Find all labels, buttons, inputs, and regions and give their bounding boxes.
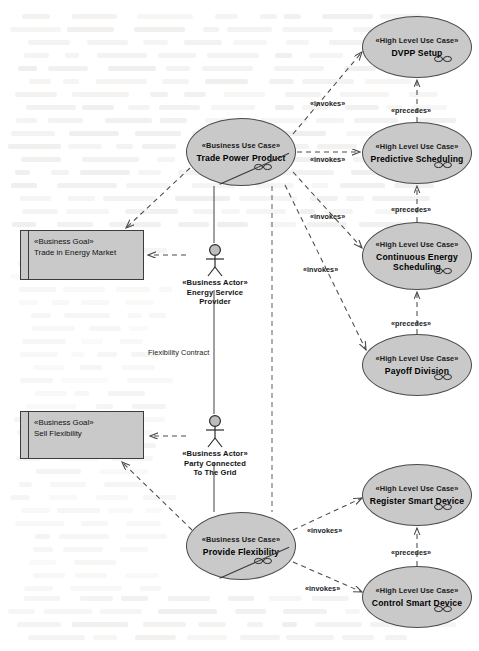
business-goal-text: «Business Goal»Sell Flexibility <box>34 418 139 439</box>
business-goal-marker <box>21 412 29 458</box>
use-case-provide-flexibility[interactable]: «Business Use Case»Provide Flexibility <box>186 512 296 580</box>
actor-label: «Business Actor»Party ConnectedTo The Gr… <box>155 449 275 478</box>
edge-label-precedes-1: «precedes» <box>391 106 431 115</box>
edge-invokes-dvpp-setup <box>293 52 362 134</box>
chain-icon <box>433 503 453 511</box>
business-use-case-slash <box>187 119 295 185</box>
actor-stick-figure-icon <box>155 243 275 277</box>
chain-icon <box>433 267 453 275</box>
actor-stick-figure-icon <box>155 414 275 448</box>
business-goal-sell-flexibility[interactable]: «Business Goal»Sell Flexibility <box>20 411 144 459</box>
chain-icon <box>433 605 453 613</box>
business-goal-stereotype: «Business Goal» <box>34 418 139 429</box>
use-case-continuous-energy-scheduling[interactable]: «High Level Use Case»Continuous Energy S… <box>362 222 472 290</box>
chain-icon <box>433 55 453 63</box>
edge-trade-power-product-to-goal <box>126 168 190 228</box>
use-case-register-smart-device[interactable]: «High Level Use Case»Register Smart Devi… <box>362 464 472 526</box>
actor-name-line2: To The Grid <box>155 468 275 478</box>
business-goal-name: Sell Flexibility <box>34 429 139 440</box>
actor-stereotype: «Business Actor» <box>155 278 275 288</box>
use-case-name: Register Smart Device <box>364 496 470 507</box>
uml-use-case-diagram: «Business Use Case»Trade Power Product«B… <box>0 0 479 651</box>
chain-icon <box>433 373 453 381</box>
actor-stereotype: «Business Actor» <box>155 449 275 459</box>
use-case-stereotype: «High Level Use Case» <box>375 354 458 363</box>
chain-icon <box>253 557 273 565</box>
edge-label-precedes-4: «precedes» <box>391 548 431 557</box>
edge-label-invokes-dvpp: «invokes» <box>310 99 345 108</box>
use-case-predictive-scheduling[interactable]: «High Level Use Case»Predictive Scheduli… <box>362 122 472 184</box>
edge-label-invokes-predictive: «invokes» <box>310 155 345 164</box>
use-case-trade-power-product[interactable]: «Business Use Case»Trade Power Product <box>186 118 296 186</box>
edge-label-invokes-payoff: «invokes» <box>303 265 338 274</box>
chain-icon <box>433 161 453 169</box>
chain-icon <box>253 163 273 171</box>
use-case-payoff-division[interactable]: «High Level Use Case»Payoff Division <box>362 334 472 396</box>
business-goal-name: Trade in Energy Market <box>34 248 139 259</box>
business-use-case-slash <box>187 513 295 579</box>
business-goal-marker <box>21 231 29 279</box>
business-actor-party-connected-to-the-grid[interactable]: «Business Actor»Party ConnectedTo The Gr… <box>155 414 275 478</box>
use-case-name: Predictive Scheduling <box>365 154 470 165</box>
business-goal-text: «Business Goal»Trade in Energy Market <box>34 237 139 258</box>
edge-label-precedes-2: «precedes» <box>391 205 431 214</box>
actor-name-line1: Energy Service <box>155 288 275 298</box>
edge-label-invokes-control: «invokes» <box>305 584 340 593</box>
use-case-name: Continuous Energy Scheduling <box>363 252 471 273</box>
edge-label-flexibility-contract: Flexibility Contract <box>148 348 209 357</box>
business-actor-energy-service-provider[interactable]: «Business Actor»Energy ServiceProvider <box>155 243 275 307</box>
actor-name-line2: Provider <box>155 297 275 307</box>
use-case-stereotype: «High Level Use Case» <box>375 484 458 493</box>
edge-label-precedes-3: «precedes» <box>391 319 431 328</box>
actor-name-line1: Party Connected <box>155 459 275 469</box>
use-case-stereotype: «High Level Use Case» <box>375 586 458 595</box>
use-case-stereotype: «High Level Use Case» <box>375 36 458 45</box>
use-case-stereotype: «High Level Use Case» <box>375 240 458 249</box>
use-case-stereotype: «High Level Use Case» <box>375 142 458 151</box>
edge-invokes-continuous-energy-scheduling <box>293 172 362 248</box>
business-goal-trade-in-energy-market[interactable]: «Business Goal»Trade in Energy Market <box>20 230 144 280</box>
edge-label-invokes-continuous: «invokes» <box>310 212 345 221</box>
actor-label: «Business Actor»Energy ServiceProvider <box>155 278 275 307</box>
business-goal-stereotype: «Business Goal» <box>34 237 139 248</box>
use-case-control-smart-device[interactable]: «High Level Use Case»Control Smart Devic… <box>362 566 472 628</box>
use-case-dvpp-setup[interactable]: «High Level Use Case»DVPP Setup <box>362 16 472 78</box>
edge-label-invokes-register: «invokes» <box>307 526 342 535</box>
